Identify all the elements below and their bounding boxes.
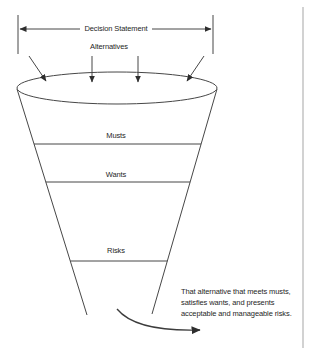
funnel-right-side — [152, 89, 217, 314]
input-arrow-outer-right — [187, 56, 204, 81]
input-arrow-outer-left — [29, 56, 46, 81]
alternatives-label: Alternatives — [49, 42, 169, 51]
decision-statement-label: Decision Statement — [36, 24, 196, 33]
decision-funnel-diagram: Decision Statement Alternatives Musts Wa… — [0, 0, 312, 348]
funnel-left-side — [17, 89, 87, 315]
funnel-section-label-musts: Musts — [66, 131, 166, 140]
funnel-section-label-risks: Risks — [66, 246, 166, 255]
funnel-top-ellipse — [17, 72, 217, 104]
funnel-section-label-wants: Wants — [66, 170, 166, 179]
outcome-note: That alternative that meets musts, satis… — [181, 286, 292, 319]
